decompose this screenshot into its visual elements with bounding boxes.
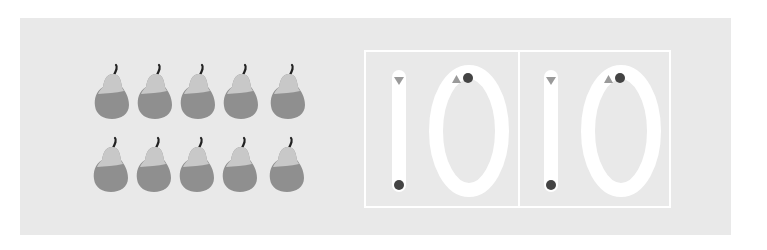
pear-icon <box>220 136 260 194</box>
pear-icon <box>134 136 174 194</box>
pear-icon <box>221 63 261 121</box>
pear-icon <box>178 63 218 121</box>
digit-one-trace[interactable] <box>544 70 558 192</box>
pear-icon <box>177 136 217 194</box>
pear-icon <box>268 63 308 121</box>
tracing-frame <box>364 50 671 208</box>
trace-cell-1 <box>366 52 517 206</box>
pear-icon <box>267 136 307 194</box>
pear-icon <box>91 136 131 194</box>
pear-icon <box>92 63 132 121</box>
trace-cell-2 <box>518 52 671 206</box>
dot-icon <box>546 180 556 190</box>
pear-icon <box>135 63 175 121</box>
digit-one-trace[interactable] <box>392 70 406 192</box>
dot-icon <box>394 180 404 190</box>
dot-icon <box>463 73 473 83</box>
digit-zero-trace[interactable] <box>436 72 502 190</box>
digit-zero-trace[interactable] <box>588 72 654 190</box>
dot-icon <box>615 73 625 83</box>
